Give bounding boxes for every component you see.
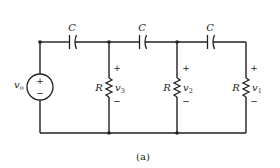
junction-dot: [175, 40, 179, 44]
resistor-v1-label: R: [231, 82, 240, 93]
voltage-v2-label: v2: [183, 82, 193, 95]
junction-dot: [38, 40, 42, 44]
voltage-v3-label: v3: [115, 82, 125, 95]
source-minus-sign: −: [36, 88, 44, 98]
capacitor-3-label: C: [206, 22, 214, 33]
v3-minus-sign: −: [113, 96, 121, 106]
capacitor-1-label: C: [68, 22, 76, 33]
resistor-v3-label: R: [94, 82, 103, 93]
capacitor-3: C: [206, 22, 214, 49]
voltage-v1-label: v1: [252, 82, 262, 95]
resistor-v3: R v3 + −: [94, 42, 125, 133]
capacitor-2-label: C: [138, 22, 146, 33]
source-plus-sign: +: [36, 76, 44, 86]
v2-minus-sign: −: [182, 96, 190, 106]
circuit-diagram: + − vo C C C R v3 + − R v2 + −: [0, 0, 280, 168]
junction-dot: [175, 131, 179, 135]
source-label: vo: [14, 79, 24, 92]
capacitor-2: C: [138, 22, 146, 49]
resistor-v2: R v2 + −: [162, 42, 193, 133]
figure-caption: (a): [136, 151, 150, 162]
v1-minus-sign: −: [250, 96, 258, 106]
voltage-source: + − vo: [14, 42, 53, 133]
v3-plus-sign: +: [113, 63, 121, 73]
junction-dot: [107, 40, 111, 44]
resistor-v1: R v1 + −: [231, 42, 262, 133]
v1-plus-sign: +: [250, 63, 258, 73]
v2-plus-sign: +: [182, 63, 190, 73]
junction-dot: [107, 131, 111, 135]
resistor-v2-label: R: [162, 82, 171, 93]
capacitor-1: C: [68, 22, 76, 49]
